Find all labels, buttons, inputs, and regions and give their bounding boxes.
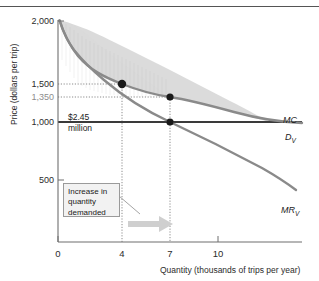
area-value-label: $2.45 <box>68 112 89 123</box>
demand-curve-label-sub: V <box>292 137 296 144</box>
x-tick-marks <box>58 236 218 242</box>
y-tick-label-1000: 1,000 <box>22 117 54 127</box>
callout-line-2: quantity <box>68 197 115 207</box>
x-tick-label-4: 4 <box>112 249 132 260</box>
y-tick-label-500: 500 <box>22 175 54 185</box>
x-tick-label-10: 10 <box>208 249 228 260</box>
chart-figure: 2,000 1,500 1,350 1,000 500 0 4 7 10 Pri… <box>0 0 319 281</box>
increase-in-quantity-callout: Increase in quantity demanded <box>63 183 120 217</box>
area-unit-label: million <box>68 123 92 134</box>
data-point-q4-p1500 <box>118 80 126 88</box>
y-tick-marks <box>58 21 64 180</box>
data-point-q7-p1000 <box>166 118 173 125</box>
mr-curve-label-sub: V <box>295 210 299 217</box>
y-tick-label-1350: 1,350 <box>22 92 54 102</box>
demand-curve-label: DV <box>285 132 296 144</box>
shaded-profit-area <box>60 21 270 123</box>
y-tick-label-2000: 2,000 <box>22 16 54 26</box>
mr-curve-label-text: MR <box>281 205 295 215</box>
x-tick-label-0: 0 <box>48 249 68 260</box>
increase-arrow <box>128 216 173 232</box>
mc-curve-label: MC <box>283 115 297 125</box>
chart-plot-svg <box>0 0 319 281</box>
mr-curve-label: MRV <box>281 205 299 217</box>
y-axis-title: Price (dollars per trip) <box>10 44 20 125</box>
x-axis-title: Quantity (thousands of trips per year) <box>160 266 300 276</box>
callout-line-3: demanded <box>68 208 115 218</box>
data-point-q7-p1350 <box>166 93 173 100</box>
guide-lines <box>58 84 170 242</box>
callout-line-1: Increase in <box>68 187 115 197</box>
y-tick-label-1500: 1,500 <box>22 79 54 89</box>
x-tick-label-7: 7 <box>160 249 180 260</box>
